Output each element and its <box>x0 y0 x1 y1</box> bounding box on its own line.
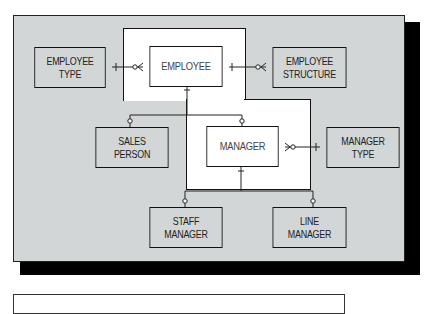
entity-employee-structure-label: EMPLOYEE STRUCTURE <box>283 55 336 81</box>
entity-line-manager-label: LINE MANAGER <box>288 215 331 241</box>
entity-manager[interactable]: MANAGER <box>206 126 278 167</box>
entity-staff-manager[interactable]: STAFF MANAGER <box>149 207 222 248</box>
entity-sales-person[interactable]: SALES PERSON <box>95 127 168 168</box>
caption-box <box>13 294 345 314</box>
entity-staff-manager-label: STAFF MANAGER <box>164 215 207 241</box>
entity-employee-type[interactable]: EMPLOYEE TYPE <box>34 47 105 88</box>
entity-manager-type[interactable]: MANAGER TYPE <box>326 127 399 168</box>
entity-employee[interactable]: EMPLOYEE <box>149 46 222 87</box>
entity-employee-label: EMPLOYEE <box>161 60 210 73</box>
entity-manager-label: MANAGER <box>220 140 266 153</box>
entity-employee-structure[interactable]: EMPLOYEE STRUCTURE <box>273 47 347 88</box>
entity-sales-person-label: SALES PERSON <box>114 135 150 161</box>
entity-line-manager[interactable]: LINE MANAGER <box>273 207 347 248</box>
entity-employee-type-label: EMPLOYEE TYPE <box>46 55 93 81</box>
entity-manager-type-label: MANAGER TYPE <box>341 135 384 161</box>
